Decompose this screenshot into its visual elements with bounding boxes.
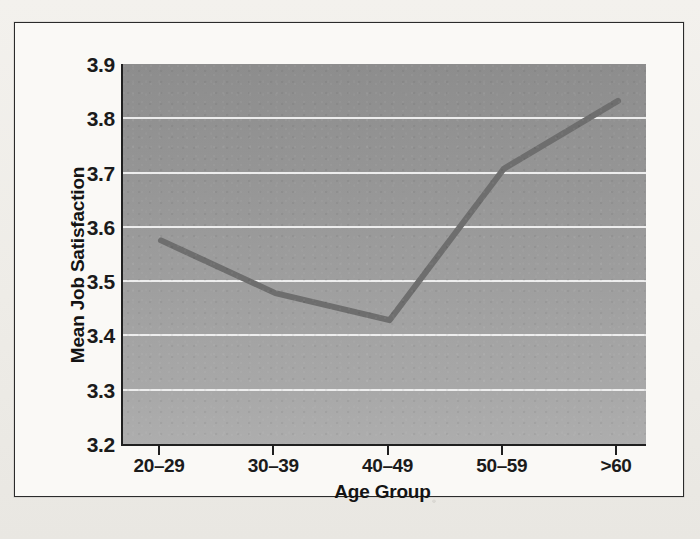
line-series-svg [123,64,646,444]
y-tick-label: 3.8 [87,108,115,129]
x-tick-label: 40–49 [362,455,413,477]
x-tick-labels-group: 20–2930–3940–4950–59>60 [121,455,644,481]
x-tick-mark [272,444,274,455]
x-tick-label: 50–59 [476,455,527,477]
x-axis-title: Age Group [121,481,644,503]
x-tick-label: >60 [600,455,631,477]
y-tick-label: 3.3 [87,379,115,400]
y-tick-label: 3.2 [87,434,115,455]
plot-area [121,64,646,446]
y-tick-label: 3.9 [87,54,115,75]
y-tick-label: 3.4 [87,325,115,346]
y-tick-label: 3.5 [87,271,115,292]
x-tick-label: 20–29 [134,455,185,477]
x-tick-mark [501,444,503,455]
x-tick-mark [615,444,617,455]
y-axis-title: Mean Job Satisfaction [67,140,89,390]
figure-frame: 3.93.83.73.63.53.43.33.2 20–2930–3940–49… [14,22,684,497]
x-tick-mark [387,444,389,455]
line-series-path [161,101,618,320]
x-tick-mark [158,444,160,455]
x-tick-label: 30–39 [248,455,299,477]
y-tick-label: 3.7 [87,162,115,183]
y-tick-label: 3.6 [87,216,115,237]
